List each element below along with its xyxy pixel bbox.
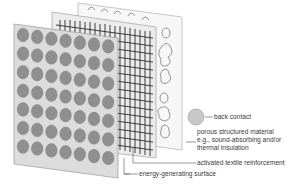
solar-cell xyxy=(46,69,58,83)
solar-cell xyxy=(102,151,114,165)
solar-cell xyxy=(31,49,43,63)
solar-cell xyxy=(88,94,100,108)
solar-cell xyxy=(46,106,58,120)
solar-cell xyxy=(88,112,100,126)
solar-cell xyxy=(17,103,29,117)
solar-cell xyxy=(60,127,72,141)
solar-cell xyxy=(74,110,86,124)
solar-cell xyxy=(31,142,43,156)
solar-cell xyxy=(102,77,114,91)
textile-reinforcement-label: activated textile reinforcement xyxy=(197,159,285,167)
solar-cell xyxy=(31,123,43,137)
solar-cell xyxy=(46,32,58,46)
solar-cell xyxy=(74,54,86,68)
solar-cell xyxy=(102,95,114,109)
solar-cell xyxy=(88,56,100,70)
solar-cell xyxy=(102,40,114,54)
solar-cell xyxy=(60,146,72,160)
solar-cell xyxy=(17,28,29,42)
energy-surface-label: energy-generating surface xyxy=(139,170,216,178)
solar-cell xyxy=(88,131,100,145)
porous-material-label: porous structured material e.g., sound-a… xyxy=(197,128,281,152)
solar-cell xyxy=(88,38,100,52)
solar-cell xyxy=(17,140,29,154)
solar-cell xyxy=(74,36,86,50)
solar-cell xyxy=(46,144,58,158)
solar-cell xyxy=(31,86,43,100)
solar-cell xyxy=(60,71,72,85)
solar-cell xyxy=(60,108,72,122)
solar-cell xyxy=(60,34,72,48)
solar-cell xyxy=(17,65,29,79)
solar-cell xyxy=(102,114,114,128)
solar-cell xyxy=(60,53,72,67)
back-contact-disc xyxy=(188,109,204,125)
solar-cell xyxy=(88,149,100,163)
solar-cell xyxy=(17,121,29,135)
solar-cell xyxy=(60,90,72,104)
solar-cell xyxy=(31,67,43,81)
solar-cell xyxy=(46,51,58,65)
solar-cell xyxy=(46,88,58,102)
solar-cell xyxy=(31,105,43,119)
back-contact-label: back contact xyxy=(214,113,251,121)
solar-cell xyxy=(74,147,86,161)
solar-cell xyxy=(46,125,58,139)
solar-cell xyxy=(74,92,86,106)
solar-cell xyxy=(74,129,86,143)
solar-cell xyxy=(17,84,29,98)
solar-cell xyxy=(31,30,43,44)
energy-surface-layer xyxy=(14,24,118,178)
solar-cell xyxy=(88,75,100,89)
solar-cell xyxy=(17,47,29,61)
solar-cell xyxy=(102,133,114,147)
solar-cell xyxy=(102,58,114,72)
solar-cell xyxy=(74,73,86,87)
